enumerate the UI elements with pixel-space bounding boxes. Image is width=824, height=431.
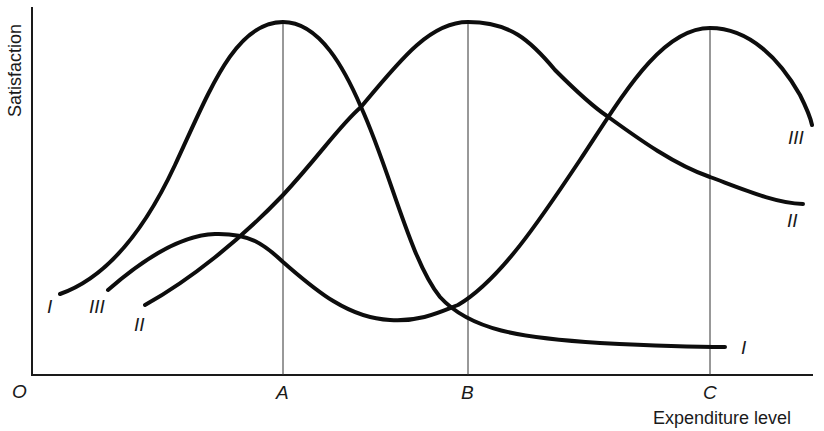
curve-ii-start-label: II: [134, 314, 145, 335]
tick-label-c: C: [703, 382, 717, 403]
x-axis-label: Expenditure level: [653, 408, 791, 428]
curve-i-end-label: I: [741, 337, 747, 358]
curve-ii: [145, 22, 803, 305]
tick-label-b: B: [461, 382, 474, 403]
satisfaction-diagram: Satisfaction O A B C Expenditure level I…: [0, 0, 824, 431]
curve-ii-end-label: II: [787, 210, 798, 231]
curve-i-start-label: I: [47, 296, 53, 317]
curve-iii-end-label: III: [788, 127, 805, 148]
origin-label: O: [12, 381, 27, 402]
curve-iii-start-label: III: [89, 296, 106, 317]
tick-label-a: A: [275, 382, 289, 403]
y-axis-label: Satisfaction: [5, 24, 25, 117]
